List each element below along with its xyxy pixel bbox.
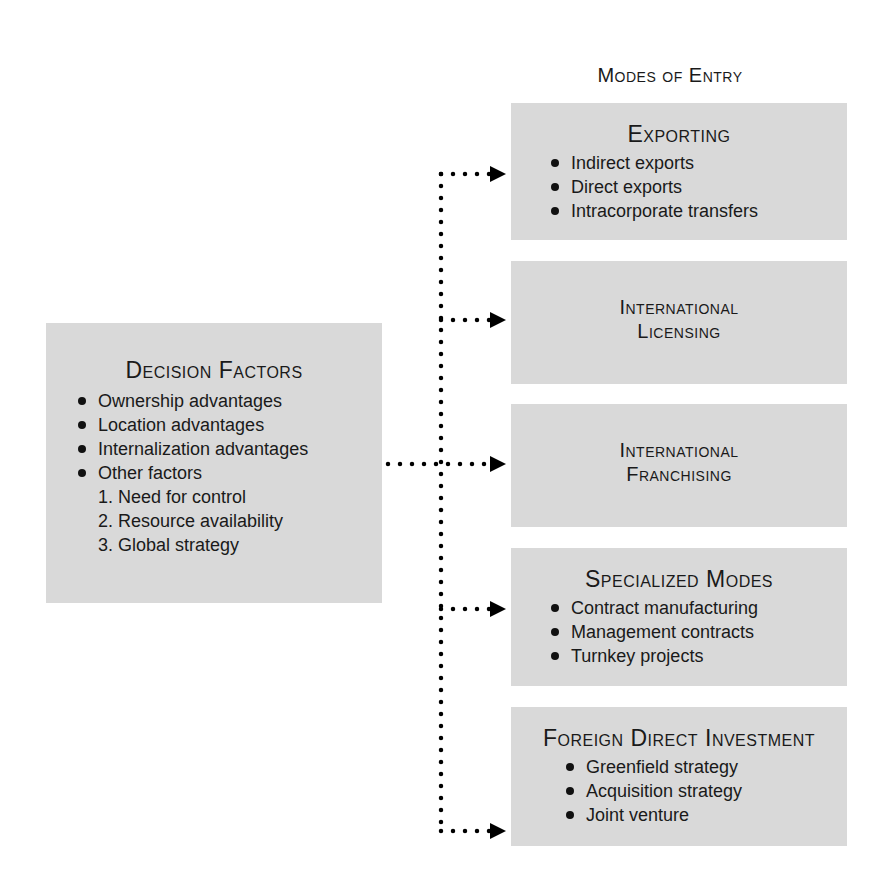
arrow-icon <box>490 823 506 839</box>
arrow-icon <box>490 312 506 328</box>
dotted-connectors <box>0 0 890 873</box>
arrow-icon <box>490 601 506 617</box>
arrow-icon <box>490 456 506 472</box>
arrow-icon <box>490 166 506 182</box>
